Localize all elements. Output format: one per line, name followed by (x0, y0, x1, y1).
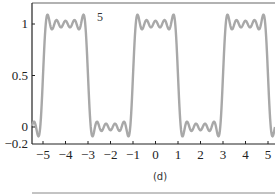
x-tick-label: 0 (152, 147, 159, 162)
x-tick-label: 5 (265, 147, 272, 162)
annotation-label: 5 (97, 10, 103, 24)
series-line (32, 15, 275, 137)
chart: −5−4−3−2−1012345 10.50−0.2 5 (d) (0, 0, 275, 195)
chart-caption: (d) (153, 171, 167, 182)
y-tick-label: 0 (22, 119, 29, 134)
curve-layer (32, 15, 275, 137)
x-tick-label: −4 (59, 147, 73, 162)
y-tick-label: −0.2 (4, 136, 28, 151)
y-tick-label: 0.5 (12, 68, 28, 83)
x-tick-label: 4 (242, 147, 249, 162)
x-tick-label: −2 (104, 147, 118, 162)
y-tick-label: 1 (22, 16, 29, 31)
x-tick-label: −3 (81, 147, 95, 162)
x-tick-label: 3 (220, 147, 227, 162)
x-tick-label: 1 (175, 147, 182, 162)
y-axis: 10.50−0.2 (4, 16, 35, 151)
x-tick-label: −5 (36, 147, 50, 162)
x-tick-label: 2 (197, 147, 204, 162)
x-tick-label: −1 (126, 147, 140, 162)
